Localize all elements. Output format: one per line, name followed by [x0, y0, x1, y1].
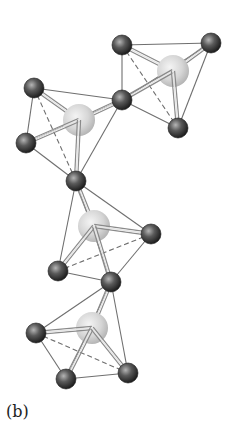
tetrahedron-edge: [122, 43, 211, 45]
vertex-atom: [201, 33, 221, 53]
vertex-atom: [56, 369, 76, 389]
vertex-atom: [101, 272, 121, 292]
vertex-atom: [16, 133, 36, 153]
vertex-atom: [48, 261, 68, 281]
tetrahedron-edge: [34, 88, 122, 100]
vertex-atom: [24, 78, 44, 98]
panel-label: (b): [6, 404, 29, 420]
vertex-atom: [141, 224, 161, 244]
vertex-atom: [112, 35, 132, 55]
vertex-atom: [26, 323, 46, 343]
vertex-atom: [118, 363, 138, 383]
vertex-atom: [66, 171, 86, 191]
vertex-atom: [112, 90, 132, 110]
vertex-atom: [168, 118, 188, 138]
